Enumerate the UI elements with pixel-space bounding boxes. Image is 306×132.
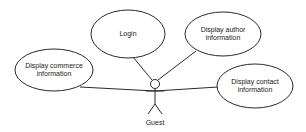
association-login <box>133 57 152 80</box>
association-author <box>158 51 196 80</box>
use-case-display-commerce-information[interactable]: Display commerce information <box>15 49 93 91</box>
actor-head-icon <box>151 80 160 89</box>
actor-guest[interactable]: Guest <box>146 80 165 127</box>
use-case-contact-label-line2: information <box>238 86 273 93</box>
actor-label: Guest <box>146 119 165 126</box>
use-case-diagram: Login Display author information Display… <box>0 0 306 132</box>
use-case-login-label: Login <box>119 30 136 38</box>
use-case-commerce-label-line1: Display commerce <box>25 62 83 70</box>
actor-left-leg <box>148 104 155 114</box>
use-case-contact-label-line1: Display contact <box>231 78 279 86</box>
use-case-author-label-line1: Display author <box>201 26 246 34</box>
association-contact <box>155 87 218 91</box>
use-case-commerce-label-line2: information <box>37 70 72 77</box>
use-case-author-label-line2: information <box>206 34 241 41</box>
association-commerce <box>80 87 155 91</box>
use-case-display-author-information[interactable]: Display author information <box>185 12 261 56</box>
actor-right-leg <box>155 104 162 114</box>
use-case-login[interactable]: Login <box>91 10 165 58</box>
use-case-display-contact-information[interactable]: Display contact information <box>217 64 293 108</box>
